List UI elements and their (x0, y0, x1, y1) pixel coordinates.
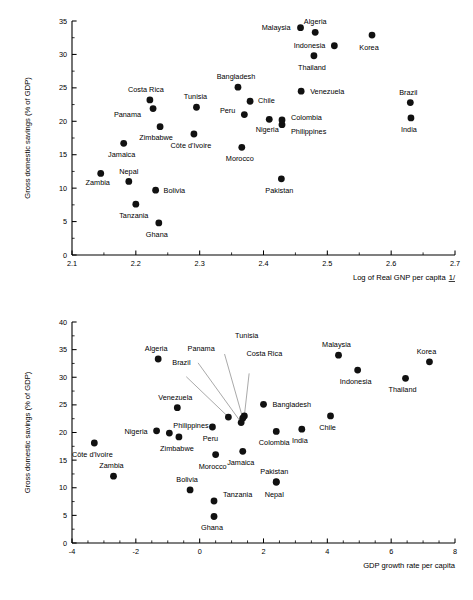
data-point-zambia[interactable]: Zambia (99, 461, 124, 479)
point-label-venezuela: Venezuela (158, 393, 193, 402)
point-label-bangladesh: Bangladesh (217, 72, 256, 81)
marker-chile (247, 98, 254, 105)
marker-costa-rica (146, 96, 153, 103)
data-point-chile[interactable]: Chile (319, 413, 336, 432)
x-tick-label: -4 (69, 547, 76, 556)
data-point-tanzania[interactable]: Tanzania (211, 490, 254, 504)
point-label-colombia: Colombia (291, 113, 323, 122)
data-point-tunisia[interactable]: Tunisia (235, 331, 259, 421)
y-tick-label: 40 (59, 318, 67, 327)
data-point-jamaica[interactable]: Jamaica (108, 140, 136, 159)
data-point-colombia[interactable]: Colombia (279, 113, 323, 123)
y-tick-label: 35 (59, 17, 67, 26)
data-point-bolivia[interactable]: Bolivia (152, 186, 186, 195)
y-tick-label: 30 (59, 50, 67, 59)
data-point-panama[interactable]: Panama (188, 344, 245, 426)
data-point-panama[interactable]: Panama (114, 105, 157, 118)
marker-panama (150, 105, 157, 112)
data-point-nigeria[interactable]: Nigeria (124, 427, 160, 436)
data-point-india[interactable]: India (292, 426, 309, 445)
x-tick-label: 2.4 (258, 259, 268, 268)
data-point-indonesia[interactable]: Indonesia (340, 367, 373, 386)
point-label-korea: Korea (417, 347, 437, 356)
data-point-zambia[interactable]: Zambia (86, 170, 111, 187)
point-label-indonesia: Indonesia (294, 41, 327, 50)
data-point-brazil[interactable]: Brazil (172, 358, 232, 420)
point-label-peru: Peru (220, 106, 235, 115)
data-point-ghana[interactable]: Ghana (146, 220, 169, 239)
marker-chile (327, 413, 334, 420)
data-point-thailand[interactable]: Thailand (298, 52, 326, 71)
data-point-algeria[interactable]: Algeria (304, 17, 328, 35)
x-tick-label: -2 (133, 547, 140, 556)
data-point-malaysia[interactable]: Malaysia (262, 23, 304, 32)
data-point-algeria[interactable]: Algeria (145, 344, 169, 362)
data-point-nigeria[interactable]: Nigeria (256, 116, 280, 134)
marker-colombia (273, 428, 280, 435)
x-tick-label: 2 (261, 547, 265, 556)
marker-nigeria (266, 116, 273, 123)
data-point-tunisia[interactable]: Tunisia (184, 92, 208, 110)
data-point-korea[interactable]: Korea (417, 347, 437, 365)
x-tick-label: 2.2 (131, 259, 141, 268)
data-point-venezuela[interactable]: Venezuela (298, 87, 345, 96)
scatter-chart-bottom: 0510152025303540-4-202468GDP growth rate… (0, 300, 473, 600)
marker-thailand (402, 375, 409, 382)
marker-zimbabwe (157, 123, 164, 130)
data-point-bangladesh[interactable]: Bangladesh (260, 400, 311, 409)
point-label-panama: Panama (114, 110, 142, 119)
point-label-peru: Peru (203, 434, 218, 443)
data-point-ghana[interactable]: Ghana (201, 513, 224, 532)
marker-algeria (312, 29, 319, 36)
y-axis-title: Gross domestic savings (% of GDP) (23, 77, 32, 199)
data-point-peru[interactable]: Peru (220, 106, 248, 118)
point-label-thailand: Thailand (298, 63, 326, 72)
data-point-nepal[interactable]: Nepal (265, 479, 284, 499)
data-point-pakistan[interactable]: Pakistan (265, 175, 293, 194)
marker-bangladesh (260, 401, 267, 408)
data-point-c-te-d-ivoire[interactable]: Côte d'Ivoire (72, 440, 113, 459)
y-tick-label: 15 (59, 456, 67, 465)
data-point-morocco[interactable]: Morocco (199, 451, 227, 470)
marker-bolivia (152, 187, 159, 194)
x-axis-title-text: GDP growth rate per capita (363, 561, 456, 570)
marker-venezuela (298, 88, 305, 95)
data-point-philippines[interactable]: Philippines (279, 121, 327, 135)
point-label-c-te-d-ivoire: Côte d'Ivoire (72, 450, 113, 459)
data-point-morocco[interactable]: Morocco (226, 144, 254, 163)
data-point-thailand[interactable]: Thailand (389, 375, 417, 394)
data-point-indonesia[interactable]: Indonesia (294, 41, 338, 50)
data-point-colombia[interactable]: Colombia (259, 428, 291, 447)
leader-line-panama (198, 363, 241, 423)
data-point-tanzania[interactable]: Tanzania (119, 201, 149, 220)
data-point-zimbabwe[interactable]: Zimbabwe (139, 123, 173, 141)
point-label-philippines: Philippines (173, 421, 209, 430)
point-label-bolivia: Bolivia (164, 186, 186, 195)
marker-jamaica (239, 448, 246, 455)
leader-line-tunisia (225, 354, 243, 418)
marker-peru (209, 424, 216, 431)
y-tick-label: 15 (59, 150, 67, 159)
data-point-jamaica[interactable]: Jamaica (227, 448, 255, 467)
data-point-brazil[interactable]: Brazil (399, 88, 418, 106)
marker-bangladesh (235, 84, 242, 91)
data-point-bolivia[interactable]: Bolivia (176, 475, 198, 493)
marker-malaysia (335, 352, 342, 359)
data-point-bangladesh[interactable]: Bangladesh (217, 72, 256, 90)
data-point-india[interactable]: India (401, 115, 418, 134)
data-point-costa-rica[interactable]: Costa Rica (128, 85, 165, 103)
point-label-thailand: Thailand (389, 385, 417, 394)
point-label-tanzania: Tanzania (119, 211, 149, 220)
data-point-zimbabwe[interactable]: Zimbabwe (160, 434, 194, 453)
data-point-malaysia[interactable]: Malaysia (322, 340, 352, 358)
data-point-venezuela[interactable]: Venezuela (158, 393, 193, 411)
data-point-c-te-d-ivoire[interactable]: Côte d'Ivoire (171, 131, 212, 150)
data-point-chile[interactable]: Chile (247, 96, 275, 105)
data-point-korea[interactable]: Korea (359, 32, 379, 52)
data-point-nepal[interactable]: Nepal (119, 167, 138, 184)
point-label-nepal: Nepal (265, 490, 284, 499)
y-tick-label: 0 (63, 539, 67, 548)
leader-line-brazil (186, 377, 228, 417)
point-label-malaysia: Malaysia (262, 23, 292, 32)
marker-tanzania (211, 498, 218, 505)
